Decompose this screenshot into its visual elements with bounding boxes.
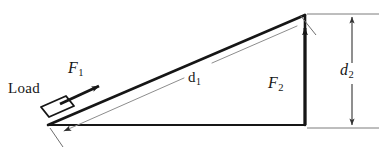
d2-label-subscript: 2 — [348, 69, 354, 80]
f1-label-subscript: 1 — [78, 67, 84, 78]
f2-label: F2 — [268, 75, 284, 94]
f1-arrow-shaft — [60, 86, 99, 104]
d1-label-subscript: 1 — [196, 76, 201, 87]
d1-label: d1 — [188, 70, 201, 87]
f2-label-subscript: 2 — [278, 82, 284, 93]
inclined-plane-diagram: Load F1 F2 d1 d2 — [0, 0, 385, 153]
f1-label: F1 — [68, 60, 84, 79]
d1-extension-tick-left — [50, 128, 63, 147]
d1-extension-tick-right — [300, 15, 316, 35]
d1-dimension-line-upper — [212, 26, 297, 63]
f2-label-base: F — [268, 74, 278, 91]
d2-label: d2 — [340, 62, 354, 81]
f1-force-arrow — [60, 86, 99, 104]
d2-label-base: d — [340, 61, 348, 78]
incline-surface-line — [48, 15, 305, 125]
f1-label-base: F — [68, 59, 78, 76]
triangle-outline — [48, 15, 305, 125]
d1-dimension-line-lower — [64, 78, 184, 131]
load-label: Load — [8, 81, 40, 96]
d1-label-base: d — [188, 69, 196, 85]
